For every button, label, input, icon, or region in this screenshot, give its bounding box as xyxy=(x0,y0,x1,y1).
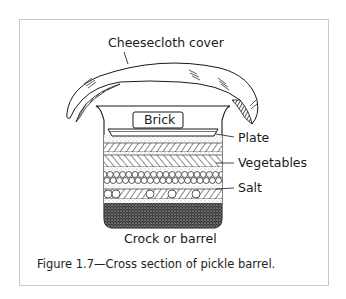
salt-bottom-dense xyxy=(100,203,230,228)
vegetable-piece xyxy=(138,172,144,178)
vegetable-piece xyxy=(188,172,194,178)
vegetable-piece xyxy=(168,190,176,198)
plate xyxy=(108,129,218,136)
vegetable-piece xyxy=(141,178,147,184)
vegetable-piece xyxy=(206,172,212,178)
vegetable-piece xyxy=(166,178,172,184)
vegetable-piece xyxy=(194,172,200,178)
vegetable-piece xyxy=(160,178,166,184)
salt-layer-5 xyxy=(100,199,230,203)
vegetable-piece xyxy=(104,178,110,184)
vegetable-piece xyxy=(169,172,175,178)
vegetable-piece xyxy=(126,172,132,178)
vegetable-piece xyxy=(219,172,225,178)
vegetable-piece xyxy=(101,172,107,178)
vegetable-piece xyxy=(151,172,157,178)
figure-caption: Figure 1.7—Cross section of pickle barre… xyxy=(37,259,275,271)
vegetable-piece xyxy=(172,178,178,184)
vegetable-piece xyxy=(129,178,135,184)
vegetables-label: Vegetables xyxy=(238,157,307,170)
salt-layer-4 xyxy=(100,185,230,189)
vegetable-piece xyxy=(191,178,197,184)
vegetable-piece xyxy=(147,178,153,184)
vegetable-piece xyxy=(135,178,141,184)
vegetable-layer-1 xyxy=(100,143,230,152)
vegetable-piece xyxy=(120,172,126,178)
vegetable-piece xyxy=(157,172,163,178)
vegetable-piece xyxy=(213,172,219,178)
vegetable-piece xyxy=(132,172,138,178)
vegetable-piece xyxy=(192,190,200,198)
vegetable-layer-3-round xyxy=(100,171,230,185)
cheesecloth-cover-label: Cheesecloth cover xyxy=(108,37,224,50)
vegetable-piece xyxy=(209,178,215,184)
vegetable-piece xyxy=(175,172,181,178)
vegetable-piece xyxy=(113,172,119,178)
brick-label: Brick xyxy=(144,114,175,127)
vegetable-piece xyxy=(104,190,112,198)
vegetable-piece xyxy=(197,178,203,184)
vegetable-piece xyxy=(123,178,129,184)
vegetable-piece xyxy=(144,172,150,178)
vegetable-piece xyxy=(216,178,222,184)
barrel-layers xyxy=(100,134,230,228)
vegetable-piece xyxy=(200,172,206,178)
vegetable-piece xyxy=(163,172,169,178)
vegetable-piece xyxy=(116,178,122,184)
vegetable-piece xyxy=(178,178,184,184)
vegetable-piece xyxy=(112,190,120,198)
vegetable-piece xyxy=(146,190,154,198)
cover-leader-line xyxy=(124,52,128,64)
salt-label: Salt xyxy=(238,182,262,195)
salt-layer-3 xyxy=(100,167,230,171)
vegetable-piece xyxy=(107,172,113,178)
salt-layer-2 xyxy=(100,152,230,155)
vegetable-piece xyxy=(222,178,228,184)
vegetable-piece xyxy=(203,178,209,184)
vegetable-piece xyxy=(182,172,188,178)
vegetable-layer-2 xyxy=(100,155,230,167)
crock-or-barrel-label: Crock or barrel xyxy=(124,233,217,246)
vegetable-piece xyxy=(110,178,116,184)
vegetable-piece xyxy=(154,178,160,184)
vegetable-piece xyxy=(185,178,191,184)
plate-label: Plate xyxy=(238,132,269,145)
